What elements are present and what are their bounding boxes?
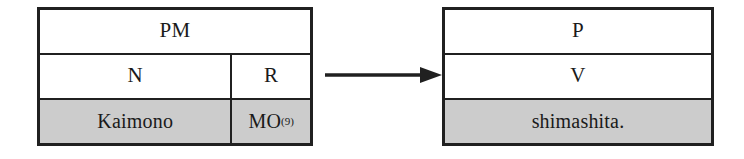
source-category-cell-noun: N (40, 55, 230, 98)
source-lexical-cell-kaimono: Kaimono (40, 100, 230, 143)
target-lexical-cell-shimashita: shimashita. (445, 100, 711, 143)
source-phrase-row: PM (40, 10, 310, 53)
target-category-cell-verb: V (445, 55, 711, 98)
source-lexical-row: Kaimono MO(9) (40, 98, 310, 143)
arrow-right-icon (324, 62, 442, 88)
target-lexical-row: shimashita. (445, 98, 711, 143)
target-phrase-cell: P (445, 10, 711, 53)
target-category-row: V (445, 53, 711, 98)
source-phrase-cell: PM (40, 10, 310, 53)
source-lexical-mo-label: MO (248, 111, 281, 131)
target-phrase-row: P (445, 10, 711, 53)
source-structure-table: PM N R Kaimono MO(9) (37, 7, 313, 146)
target-structure-table: P V shimashita. (442, 7, 714, 146)
linguistic-mapping-diagram: PM N R Kaimono MO(9) P V shimashita. (0, 0, 744, 159)
source-lexical-cell-mo: MO(9) (230, 100, 310, 143)
source-category-cell-relator: R (230, 55, 310, 98)
source-category-row: N R (40, 53, 310, 98)
